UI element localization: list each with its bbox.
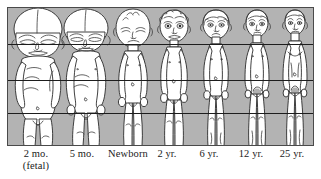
caption-fetal-2-months-label: 2 mo. (24, 148, 48, 159)
caption-age-2-years-label: 2 yr. (157, 148, 176, 159)
growth-proportion-figure: 2 mo. (fetal) 5 mo. Newborn 2 yr. 6 yr. … (0, 0, 321, 179)
reference-line-1 (7, 44, 314, 45)
caption-row: 2 mo. (fetal) 5 mo. Newborn 2 yr. 6 yr. … (0, 148, 321, 179)
caption-fetal-2-months-sublabel: (fetal) (10, 160, 62, 172)
caption-age-6-years-label: 6 yr. (199, 148, 218, 159)
caption-fetal-5-months-label: 5 mo. (70, 148, 94, 159)
caption-age-25-years: 25 yr. (268, 148, 316, 160)
figure-age-25-years (273, 7, 314, 146)
caption-fetal-2-months: 2 mo. (fetal) (10, 148, 62, 172)
caption-age-6-years: 6 yr. (185, 148, 233, 160)
caption-age-2-years: 2 yr. (143, 148, 191, 160)
reference-line-3 (7, 113, 314, 114)
figure-fetal-5-months (58, 7, 114, 146)
reference-line-2 (7, 80, 314, 81)
caption-newborn-label: Newborn (108, 148, 148, 159)
figure-age-2-years (150, 7, 198, 146)
figure-age-6-years (192, 7, 240, 146)
caption-age-25-years-label: 25 yr. (280, 148, 305, 159)
figure-panel (7, 7, 314, 146)
caption-age-12-years-label: 12 yr. (239, 148, 264, 159)
